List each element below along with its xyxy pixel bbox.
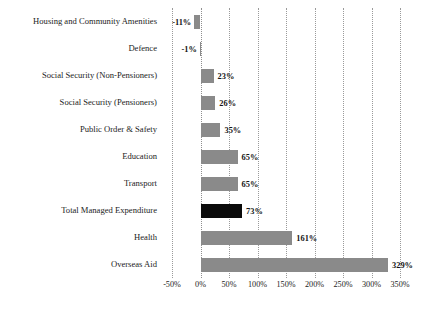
bar-track: 35%	[172, 116, 400, 143]
bar-value-label: 35%	[224, 125, 241, 134]
bar-track: -1%	[172, 35, 400, 62]
bar-row: Social Security (Pensioners)26%	[0, 89, 425, 116]
category-label: Transport	[124, 179, 157, 188]
bar-row: Social Security (Non-Pensioners)23%	[0, 62, 425, 89]
bar-track: 65%	[172, 170, 400, 197]
bar-value-label: 23%	[218, 71, 235, 80]
bar-value-label: 329%	[392, 260, 413, 269]
bar-track: 329%	[172, 251, 400, 278]
category-label: Social Security (Non-Pensioners)	[42, 71, 157, 80]
category-label: Housing and Community Amenities	[33, 17, 157, 26]
bar-value-label: -1%	[182, 44, 197, 53]
category-label: Public Order & Safety	[80, 125, 157, 134]
bar-track: -11%	[172, 8, 400, 35]
category-label: Social Security (Pensioners)	[60, 98, 157, 107]
bar	[201, 177, 238, 191]
bar-row: Defence-1%	[0, 35, 425, 62]
x-tick-label: -50%	[163, 280, 181, 289]
x-tick-label: 100%	[248, 280, 267, 289]
bar-value-label: 161%	[296, 233, 317, 242]
bar-row: Public Order & Safety35%	[0, 116, 425, 143]
x-tick-label: 350%	[390, 280, 409, 289]
bar-row: Overseas Aid329%	[0, 251, 425, 278]
bar-value-label: 26%	[219, 98, 236, 107]
category-label: Health	[134, 233, 157, 242]
bar-value-label: 65%	[242, 152, 259, 161]
bar	[201, 96, 216, 110]
x-axis: -50%0%50%100%150%200%250%300%350%	[172, 280, 400, 298]
bar-track: 23%	[172, 62, 400, 89]
category-label: Overseas Aid	[111, 260, 157, 269]
bar	[201, 231, 293, 245]
bar-row: Education65%	[0, 143, 425, 170]
bar	[201, 150, 238, 164]
x-tick-label: 300%	[362, 280, 381, 289]
bar-rows: Housing and Community Amenities-11%Defen…	[0, 8, 425, 278]
bar-value-label: 73%	[246, 206, 263, 215]
category-label: Education	[122, 152, 157, 161]
bar	[200, 42, 202, 56]
x-tick-label: 50%	[221, 280, 236, 289]
bar	[194, 15, 200, 29]
bar	[201, 258, 389, 272]
bar-track: 161%	[172, 224, 400, 251]
bar	[201, 123, 221, 137]
bar-track: 65%	[172, 143, 400, 170]
category-label: Total Managed Expenditure	[61, 206, 157, 215]
bar-track: 26%	[172, 89, 400, 116]
bar-row: Health161%	[0, 224, 425, 251]
bar-value-label: 65%	[242, 179, 259, 188]
bar	[201, 69, 214, 83]
x-tick-label: 150%	[276, 280, 295, 289]
bar-row: Total Managed Expenditure73%	[0, 197, 425, 224]
x-tick-label: 200%	[305, 280, 324, 289]
bar	[201, 204, 243, 218]
category-label: Defence	[128, 44, 157, 53]
bar-value-label: -11%	[172, 17, 191, 26]
bar-row: Housing and Community Amenities-11%	[0, 8, 425, 35]
x-tick-label: 250%	[333, 280, 352, 289]
bar-chart: Housing and Community Amenities-11%Defen…	[0, 0, 425, 312]
bar-row: Transport65%	[0, 170, 425, 197]
bar-track: 73%	[172, 197, 400, 224]
x-tick-label: 0%	[195, 280, 206, 289]
